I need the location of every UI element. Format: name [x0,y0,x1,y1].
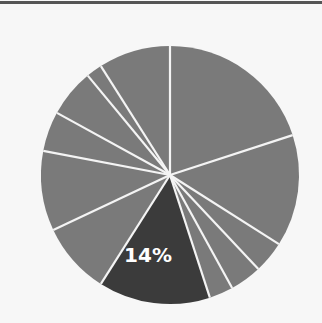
highlight-slice-label: 14% [124,243,172,267]
pie-chart: 14% [0,0,322,323]
